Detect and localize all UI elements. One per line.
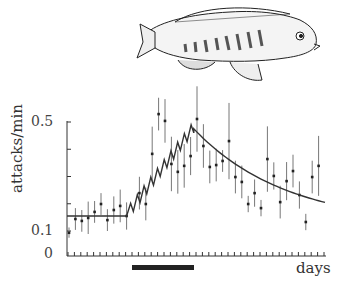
treatment-bar — [132, 265, 194, 270]
x-ticks — [68, 252, 324, 256]
x-axis-label: days — [296, 259, 331, 277]
y-tick-0.1: 0.1 — [31, 222, 53, 238]
error-bars — [69, 86, 319, 237]
fish-illustration — [137, 8, 320, 80]
y-axis-label: attacks/min — [8, 104, 26, 193]
y-tick-0: 0 — [44, 245, 53, 261]
y-ticks — [67, 122, 71, 231]
y-tick-0.5: 0.5 — [31, 113, 53, 129]
